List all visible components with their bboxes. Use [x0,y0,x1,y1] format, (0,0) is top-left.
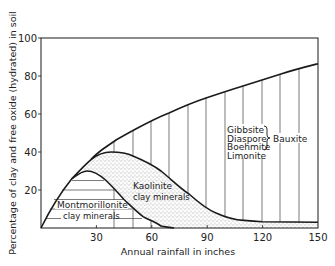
x-tick-150: 150 [308,232,327,243]
y-tick-80: 80 [24,71,37,82]
x-tick-90: 90 [201,232,214,243]
y-tick-40: 40 [24,147,37,158]
montmorillonite-label: Montmorillonite [57,200,128,210]
y-tick-100: 100 [18,33,37,44]
x-tick-60: 60 [145,232,158,243]
limonite-label: Limonite [227,151,267,161]
y-tick-20: 20 [24,185,37,196]
bauxite-label: Bauxite [273,134,308,144]
y-tick-60: 60 [24,109,37,120]
montmorillonite-sublabel: clay minerals [63,211,120,221]
kaolinite-sublabel: clay minerals [133,192,190,202]
x-tick-120: 120 [253,232,272,243]
y-axis-label: Percentage of clay and free oxide (hydra… [7,11,18,254]
x-tick-30: 30 [90,232,103,243]
soil-clay-diagram: 100 80 60 40 20 30 60 90 120 150 Annual … [0,0,335,266]
kaolinite-label: Kaolinite [133,181,172,191]
x-axis-label: Annual rainfall in inches [121,246,235,257]
